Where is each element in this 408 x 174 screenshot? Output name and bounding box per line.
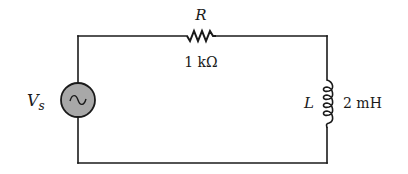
- inductor-symbol-label: L: [303, 94, 314, 112]
- resistor-symbol-label: R: [194, 6, 206, 24]
- inductor-value-label: 2 mH: [343, 95, 382, 111]
- inductor-icon: [323, 80, 332, 128]
- source-symbol-label: Vs: [27, 91, 45, 113]
- resistor-icon: [187, 31, 216, 41]
- resistor-value-label: 1 kΩ: [184, 54, 217, 70]
- source-subscript: s: [39, 99, 45, 113]
- circuit-diagram: R 1 kΩ Vs L 2 mH: [0, 0, 408, 174]
- ac-source-icon: [61, 83, 95, 117]
